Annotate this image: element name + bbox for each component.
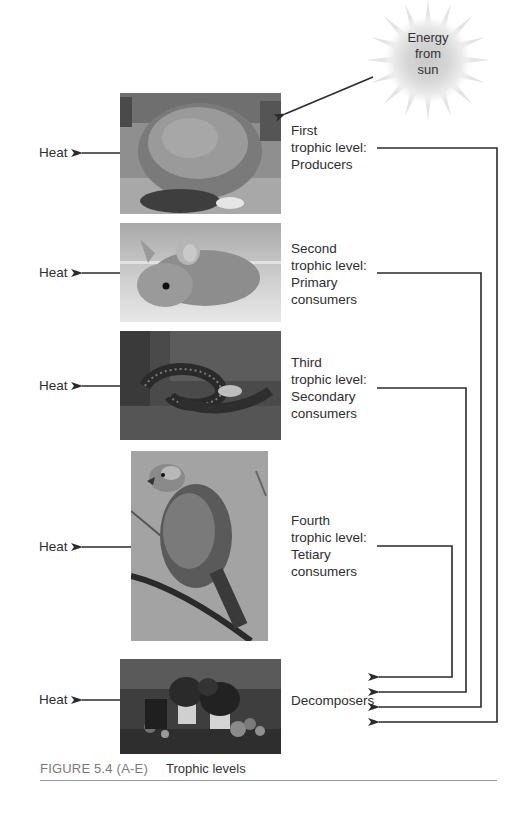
caption-rule — [40, 780, 497, 781]
sun-to-producers-arrow — [285, 77, 373, 114]
heat-label-tertiary: Heat — [39, 539, 68, 554]
producers-to-decomposers-connector — [377, 148, 497, 722]
level-label-tertiary-consumers: Fourth trophic level: Tetiary consumers — [291, 512, 367, 580]
figure-number: FIGURE 5.4 (A-E) — [40, 761, 148, 776]
heat-label-producers: Heat — [39, 145, 68, 160]
heat-label-primary: Heat — [39, 265, 68, 280]
heat-label-secondary: Heat — [39, 378, 68, 393]
label-line: consumers — [291, 563, 367, 580]
label-line: trophic level: — [291, 257, 367, 274]
tertiary-to-decomposers-connector — [377, 546, 452, 677]
level-label-decomposers: Decomposers — [291, 692, 374, 709]
label-line: trophic level: — [291, 529, 367, 546]
heat-label-decomposers: Heat — [39, 692, 68, 707]
label-line: Secondary — [291, 388, 367, 405]
level-label-primary-consumers: Second trophic level: Primary consumers — [291, 240, 367, 308]
label-line: consumers — [291, 291, 367, 308]
label-line: Primary — [291, 274, 367, 291]
label-line: Producers — [291, 156, 367, 173]
label-line: First — [291, 122, 367, 139]
flow-connectors — [0, 0, 523, 818]
label-line: Tetiary — [291, 546, 367, 563]
label-line: Decomposers — [291, 692, 374, 709]
level-label-producers: First trophic level: Producers — [291, 122, 367, 173]
figure-caption: FIGURE 5.4 (A-E)Trophic levels — [40, 761, 246, 776]
label-line: consumers — [291, 405, 367, 422]
label-line: Second — [291, 240, 367, 257]
label-line: Fourth — [291, 512, 367, 529]
level-label-secondary-consumers: Third trophic level: Secondary consumers — [291, 354, 367, 422]
label-line: Third — [291, 354, 367, 371]
figure-title: Trophic levels — [166, 761, 246, 776]
label-line: trophic level: — [291, 371, 367, 388]
label-line: trophic level: — [291, 139, 367, 156]
